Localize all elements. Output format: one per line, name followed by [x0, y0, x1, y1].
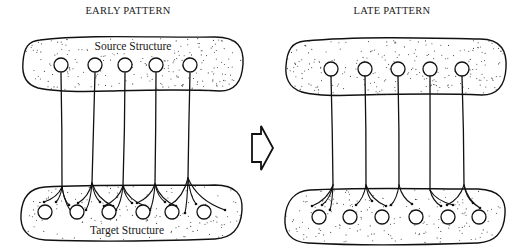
stipple-dot: [376, 91, 377, 92]
stipple-dot: [486, 80, 487, 81]
early-pattern-title: EARLY PATTERN: [85, 5, 170, 16]
stipple-dot: [204, 187, 205, 188]
stipple-dot: [107, 186, 108, 187]
stipple-dot: [337, 85, 338, 86]
stipple-dot: [326, 51, 327, 52]
stipple-dot: [76, 62, 77, 63]
stipple-dot: [374, 49, 375, 50]
stipple-dot: [216, 86, 217, 87]
stipple-dot: [134, 74, 135, 75]
stipple-dot: [293, 219, 294, 220]
stipple-dot: [308, 228, 309, 229]
stipple-dot: [437, 93, 438, 94]
stipple-dot: [230, 221, 231, 222]
stipple-dot: [485, 64, 486, 65]
stipple-dot: [394, 223, 395, 224]
stipple-dot: [40, 78, 41, 79]
stipple-dot: [187, 44, 188, 45]
stipple-dot: [356, 211, 357, 212]
stipple-dot: [212, 81, 213, 82]
stipple-dot: [32, 45, 33, 46]
stipple-dot: [132, 83, 133, 84]
stipple-dot: [361, 218, 362, 219]
stipple-dot: [445, 67, 446, 68]
right-arrow-icon: [252, 126, 273, 170]
stipple-dot: [315, 207, 316, 208]
stipple-dot: [388, 64, 389, 65]
stipple-dot: [395, 90, 396, 91]
stipple-dot: [481, 74, 482, 75]
stipple-dot: [346, 190, 347, 191]
stipple-dot: [345, 42, 346, 43]
stipple-dot: [74, 237, 75, 238]
stipple-dot: [395, 81, 396, 82]
stipple-dot: [175, 227, 176, 228]
stipple-dot: [303, 239, 304, 240]
stipple-dot: [227, 216, 228, 217]
source-neuron: [88, 58, 102, 72]
stipple-dot: [334, 190, 335, 191]
stipple-dot: [423, 233, 424, 234]
stipple-dot: [440, 238, 441, 239]
stipple-dot: [212, 71, 213, 72]
stipple-dot: [117, 192, 118, 193]
stipple-dot: [230, 189, 231, 190]
source-neuron: [455, 62, 469, 76]
stipple-dot: [320, 191, 321, 192]
stipple-dot: [207, 222, 208, 223]
stipple-dot: [483, 229, 484, 230]
stipple-dot: [314, 90, 315, 91]
stipple-dot: [308, 52, 309, 53]
stipple-dot: [330, 232, 331, 233]
stipple-dot: [299, 61, 300, 62]
stipple-dot: [306, 196, 307, 197]
stipple-dot: [470, 74, 471, 75]
target-neuron: [197, 205, 211, 219]
stipple-dot: [410, 78, 411, 79]
stipple-dot: [448, 75, 449, 76]
stipple-dot: [168, 86, 169, 87]
stipple-dot: [436, 85, 437, 86]
stipple-dot: [286, 216, 287, 217]
stipple-dot: [189, 52, 190, 53]
stipple-dot: [394, 43, 395, 44]
stipple-dot: [415, 199, 416, 200]
stipple-dot: [330, 41, 331, 42]
stipple-dot: [428, 198, 429, 199]
stipple-dot: [295, 85, 296, 86]
stipple-dot: [190, 222, 191, 223]
stipple-dot: [123, 239, 124, 240]
stipple-dot: [357, 60, 358, 61]
stipple-dot: [208, 72, 209, 73]
stipple-dot: [345, 192, 346, 193]
stipple-dot: [302, 222, 303, 223]
stipple-dot: [349, 199, 350, 200]
stipple-dot: [233, 80, 234, 81]
stipple-dot: [233, 201, 234, 202]
stipple-dot: [496, 76, 497, 77]
stipple-dot: [105, 55, 106, 56]
stipple-dot: [101, 56, 102, 57]
stipple-dot: [399, 54, 400, 55]
stipple-dot: [370, 83, 371, 84]
stipple-dot: [188, 77, 189, 78]
stipple-dot: [317, 86, 318, 87]
stipple-dot: [119, 83, 120, 84]
stipple-dot: [333, 199, 334, 200]
stipple-dot: [100, 238, 101, 239]
target-neuron: [472, 210, 486, 224]
source-neuron: [149, 58, 163, 72]
stipple-dot: [289, 230, 290, 231]
stipple-dot: [103, 60, 104, 61]
stipple-dot: [180, 215, 181, 216]
stipple-dot: [110, 60, 111, 61]
stipple-dot: [416, 199, 417, 200]
stipple-dot: [395, 51, 396, 52]
stipple-dot: [182, 60, 183, 61]
stipple-dot: [390, 235, 391, 236]
stipple-dot: [179, 69, 180, 70]
stipple-dot: [301, 59, 302, 60]
stipple-dot: [49, 63, 50, 64]
stipple-dot: [426, 78, 427, 79]
stipple-dot: [315, 236, 316, 237]
